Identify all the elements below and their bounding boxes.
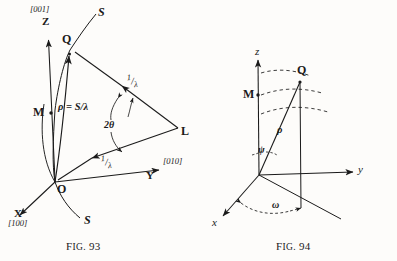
fig93-sphere-label-lower: S [84,214,91,226]
fig94-q-projection-line [300,82,301,208]
fig93-lambda-tick [128,98,133,117]
fig94-omega-arc-left [241,203,290,213]
fig94-caption-smallcaps: IG. [283,242,297,252]
fig93-two-theta-arc-upper [111,98,118,120]
fig94-x-axis [223,175,259,216]
fig94-group [223,60,353,219]
fig94-caption-number: 94 [299,240,311,252]
figure-artwork [0,0,397,261]
fig93-incident-den: λ [108,161,112,170]
fig94-caption: FIG. 94 [276,240,311,252]
figure-page: [001] Z Y [010] X [100] Q O M L S S ρ = … [0,0,397,261]
fig93-diffracted-beam-tail [75,52,122,86]
fig93-z-axis [49,40,56,182]
fig93-x-axis [20,182,55,215]
fig94-z-axis [258,60,259,175]
fig93-incident-num: 1 [100,154,105,163]
fig93-sphere-arc-upper [70,14,96,50]
fig93-caption: FIG. 93 [66,240,101,252]
fig93-point-m-label: M [33,106,44,118]
fig93-caption-number: 93 [89,240,101,252]
fig94-psi-label: ψ [258,145,265,155]
fig94-y-axis-label: y [358,164,363,175]
fig93-y-axis-label: Y [146,170,154,181]
fig93-incident-beam [92,128,178,158]
fig93-diffracted-num: 1 [126,73,131,82]
fig93-y-axis-index: [010] [163,157,182,166]
fig94-point-m-dot [256,93,259,96]
fig93-z-axis-label: Z [42,16,49,27]
fig93-diffracted-den: λ [134,80,138,89]
fig94-x-axis-label: x [212,217,217,228]
fig93-z-axis-index: [001] [30,5,49,14]
fig94-point-q-label: Q [297,64,306,76]
fig93-incident-beam-label: 1/λ [101,155,112,171]
fig94-rho-label: ρ [277,125,282,136]
fig93-point-q-label: Q [62,33,71,45]
fig94-point-m-label: M [243,88,254,100]
fig94-point-q-dot [298,80,301,83]
fig94-base-line [259,175,341,219]
fig93-two-theta-label: 2θ [104,120,114,130]
fig94-omega-label: ω [272,200,279,210]
fig93-caption-smallcaps: IG. [73,242,87,252]
fig93-incident-beam-tail [58,158,92,180]
fig93-point-m-dot [49,111,52,114]
fig94-omega-arc-right [290,208,301,211]
fig93-rho-label: ρ = S/λ [58,102,88,113]
fig94-y-axis [259,172,353,175]
fig94-cone-arc-3 [261,107,328,114]
fig93-rho-vector [55,56,69,182]
fig93-point-l-label: L [181,125,189,137]
fig94-cone-arc-2 [261,89,322,95]
fig93-diffracted-beam-label: 1/λ [127,74,138,90]
fig94-z-axis-label: z [255,46,259,57]
fig93-x-axis-index: [100] [8,219,27,228]
fig93-sphere-label-upper: S [98,6,105,18]
fig93-point-o-label: O [57,183,66,195]
fig93-point-q-dot [68,53,71,56]
